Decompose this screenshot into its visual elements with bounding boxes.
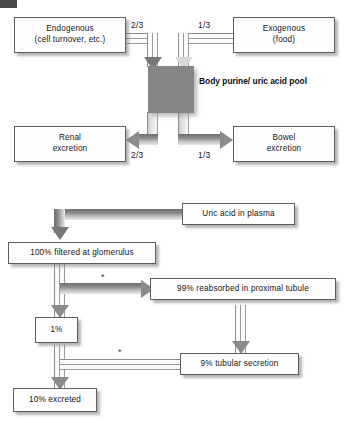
box-plasma-label: Uric acid in plasma — [202, 209, 274, 220]
label-endogenous-fraction: 2/3 — [131, 20, 143, 30]
box-bowel-excretion: Bowel excretion — [233, 126, 335, 162]
box-exogenous-line2: (food) — [263, 35, 305, 46]
box-renal-excretion: Renal excretion — [14, 126, 126, 162]
box-filtered-at-glomerulus: 100% filtered at glomerulus — [8, 242, 156, 264]
box-bowel-line1: Bowel — [267, 133, 302, 144]
box-bowel-line2: excretion — [267, 144, 302, 155]
connector-secretion-to-trunk — [60, 359, 180, 370]
box-exogenous-line1: Exogenous — [263, 24, 305, 35]
asterisk-reabsorption: * — [101, 273, 105, 282]
body-purine-pool-block — [148, 66, 194, 113]
box-renal-line1: Renal — [53, 133, 88, 144]
box-one-percent: 1% — [35, 317, 78, 343]
box-renal-line2: excretion — [53, 144, 88, 155]
diagram-purine-pool: 2/3 1/3 Body purine/ uric acid pool 2/3 … — [0, 0, 349, 195]
box-excreted: 10% excreted — [13, 388, 97, 412]
arrowhead-plasma-to-filtered — [51, 227, 69, 240]
arrowhead-pool-to-bowel — [220, 131, 233, 149]
pool-label-line1: Body purine/ — [199, 76, 250, 86]
box-endogenous-line2: (cell turnover, etc.) — [35, 35, 106, 46]
pool-label-line2: uric acid pool — [253, 76, 307, 86]
box-tubular-secretion: 9% tubular secretion — [180, 353, 299, 375]
label-renal-fraction: 2/3 — [131, 150, 143, 160]
connector-reabsorption-horizontal — [60, 283, 141, 294]
label-bowel-fraction: 1/3 — [198, 150, 210, 160]
box-secretion-label: 9% tubular secretion — [201, 359, 279, 370]
box-excreted-label: 10% excreted — [29, 395, 81, 406]
box-exogenous-source: Exogenous (food) — [233, 17, 335, 53]
box-endogenous-source: Endogenous (cell turnover, etc.) — [14, 17, 126, 53]
box-reabsorbed-proximal-tubule: 99% reabsorbed in proximal tubule — [150, 278, 336, 300]
box-uric-acid-in-plasma: Uric acid in plasma — [182, 203, 295, 225]
box-reabsorbed-label: 99% reabsorbed in proximal tubule — [177, 284, 309, 295]
box-filtered-label: 100% filtered at glomerulus — [30, 248, 134, 259]
connector-plasma-horizontal — [54, 209, 182, 220]
arrowhead-pool-to-renal — [126, 131, 139, 149]
body-purine-pool-label: Body purine/ uric acid pool — [199, 76, 319, 88]
diagram-renal-handling: * * Uric acid in plasma 100% filtered at… — [0, 195, 349, 428]
box-endogenous-line1: Endogenous — [35, 24, 106, 35]
connector-renal-horizontal — [139, 134, 158, 145]
asterisk-secretion: * — [118, 348, 122, 357]
connector-bowel-horizontal — [178, 134, 220, 145]
label-exogenous-fraction: 1/3 — [198, 20, 210, 30]
box-one-percent-label: 1% — [50, 325, 62, 336]
